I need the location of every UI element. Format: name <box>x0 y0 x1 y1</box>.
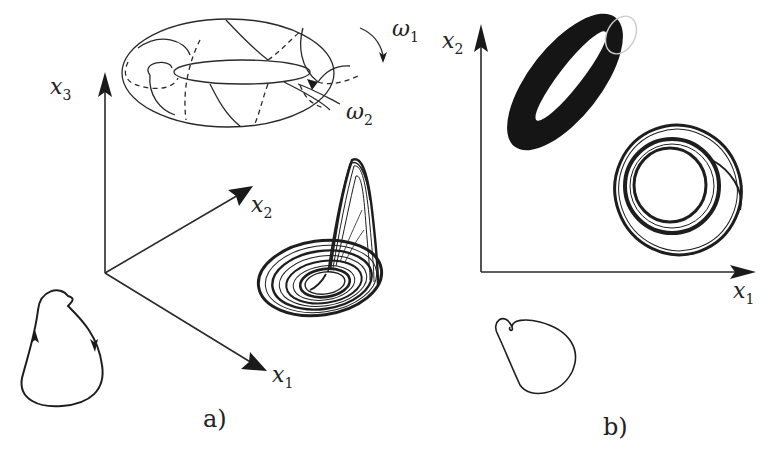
filled-torus <box>486 0 644 169</box>
x1-arrowhead-icon <box>241 352 267 371</box>
panel-a-x1-label: x1 <box>272 362 293 391</box>
torus-outer-contour <box>122 19 334 127</box>
panel-b-x2-label: x2 <box>442 28 463 57</box>
rossler-attractor <box>253 159 386 323</box>
limit-cycle-a <box>22 290 103 406</box>
panel-a-x2-label: x2 <box>251 192 272 221</box>
panel-a-caption: a) <box>203 405 227 433</box>
panel-b-caption: b) <box>603 413 628 441</box>
omega2-label: ω2 <box>346 99 373 128</box>
limit-cycle-b <box>496 319 576 394</box>
omega1-label: ω1 <box>392 16 419 45</box>
x2-axis <box>105 194 240 273</box>
omega1-arrow <box>360 28 383 55</box>
panel-b: x2 x1 b) <box>442 0 759 441</box>
panel-a-axes <box>98 72 267 371</box>
torus <box>122 19 358 127</box>
torus-inner-hole <box>174 60 310 84</box>
chaotic-attractor-b <box>597 107 760 272</box>
x1-axis <box>105 273 252 363</box>
x2-arrowhead-icon <box>228 186 253 206</box>
panel-b-x1-label: x1 <box>733 278 754 307</box>
dynamical-systems-figure: x3 x2 x1 ω1 <box>0 0 769 457</box>
panel-a-x3-label: x3 <box>50 74 71 103</box>
panel-a: x3 x2 x1 ω1 <box>22 16 419 433</box>
